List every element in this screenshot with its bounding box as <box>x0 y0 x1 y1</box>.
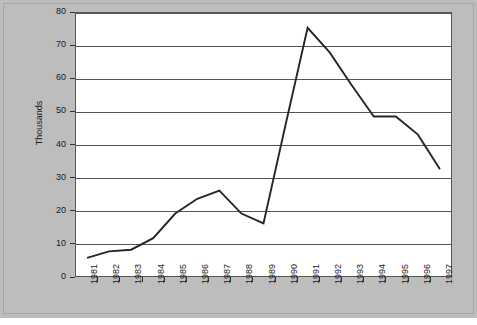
x-axis-tick-label: 1996 <box>423 264 432 284</box>
x-axis-tick-label: 1995 <box>401 264 410 284</box>
y-axis-tick-label: 20 <box>34 206 66 215</box>
x-axis-tick-label: 1985 <box>179 264 188 284</box>
x-axis-tick-label: 1994 <box>378 264 387 284</box>
x-axis-tick-label: 1992 <box>334 264 343 284</box>
y-axis-tick-label: 0 <box>34 272 66 281</box>
y-axis-tick-label: 40 <box>34 140 66 149</box>
chart-figure: Thousands 01020304050607080 198119821983… <box>0 0 477 318</box>
y-axis-tick-label: 50 <box>34 106 66 115</box>
y-axis-tick-label: 60 <box>34 73 66 82</box>
x-axis-tick-label: 1982 <box>112 264 121 284</box>
x-axis-tick-label: 1984 <box>157 264 166 284</box>
x-axis-tick-label: 1983 <box>134 264 143 284</box>
x-axis-tick-label: 1993 <box>356 264 365 284</box>
y-axis-tick-label: 70 <box>34 40 66 49</box>
y-axis-tick-label: 10 <box>34 239 66 248</box>
x-axis-tick-label: 1988 <box>245 264 254 284</box>
plot-area <box>75 12 452 277</box>
x-axis-tick-label: 1987 <box>223 264 232 284</box>
y-axis-tick-label: 30 <box>34 173 66 182</box>
x-axis-tick-label: 1986 <box>201 264 210 284</box>
y-axis-title: Thousands <box>34 78 44 168</box>
x-axis-tick-label: 1991 <box>312 264 321 284</box>
x-axis-tick-label: 1990 <box>290 264 299 284</box>
x-axis-tick-label: 1981 <box>90 264 99 284</box>
line-series-path <box>87 28 440 258</box>
x-axis-tick-label: 1989 <box>268 264 277 284</box>
x-axis-tick-label: 1997 <box>445 264 454 284</box>
series-svg <box>76 13 451 276</box>
y-axis-tick-label: 80 <box>34 7 66 16</box>
